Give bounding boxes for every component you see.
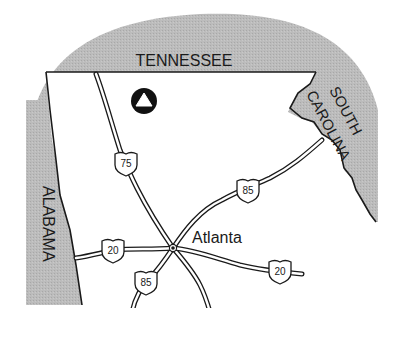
shield-i85-northeast[interactable]: 85 bbox=[237, 180, 259, 204]
shield-i20-east[interactable]: 20 bbox=[269, 261, 291, 285]
shield-i85-southwest[interactable]: 85 bbox=[135, 272, 157, 296]
tennessee-label: TENNESSEE bbox=[136, 52, 233, 69]
bottom-margin-left bbox=[26, 305, 86, 338]
atlanta-label: Atlanta bbox=[192, 229, 242, 246]
shield-number: 85 bbox=[140, 277, 152, 288]
shield-number: 75 bbox=[120, 158, 132, 169]
alabama-label: ALABAMA bbox=[40, 186, 57, 262]
atlanta-city-marker[interactable] bbox=[169, 244, 176, 251]
georgia-locator-map: 75 85 85 20 20 Atlanta TENNESSEE ALABAMA… bbox=[0, 0, 400, 338]
shield-number: 20 bbox=[107, 245, 119, 256]
triangle-in-circle-icon[interactable] bbox=[131, 88, 157, 114]
shield-i20-west[interactable]: 20 bbox=[102, 240, 124, 264]
shield-i75-north[interactable]: 75 bbox=[115, 153, 137, 177]
shield-number: 85 bbox=[242, 185, 254, 196]
road-clip bbox=[82, 308, 382, 338]
shield-number: 20 bbox=[274, 266, 286, 277]
